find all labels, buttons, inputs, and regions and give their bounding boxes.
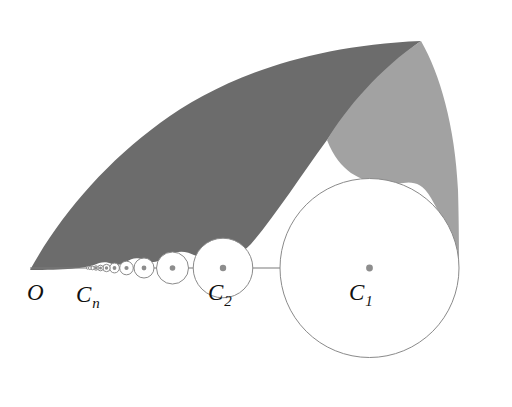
label-origin: O <box>27 280 44 305</box>
figure-root: OCnC2C1 <box>0 0 512 407</box>
geometry-figure: OCnC2C1 <box>0 0 512 407</box>
label-c-n-subscript: n <box>92 295 100 311</box>
circle-center-dot-6 <box>113 266 117 270</box>
circle-center-dot-7 <box>105 266 108 269</box>
label-origin-base: O <box>27 280 44 305</box>
circle-center-dot-5 <box>124 266 128 270</box>
circle-center-dot-8 <box>99 267 102 270</box>
circle-center-dot-4 <box>142 266 147 271</box>
circle-center-dot-1 <box>366 265 373 272</box>
circle-center-dot-2 <box>220 265 226 271</box>
label-c-2-base: C <box>208 280 224 305</box>
label-c-1-subscript: 1 <box>365 293 373 309</box>
label-c-1-base: C <box>349 280 365 305</box>
circle-center-dot-3 <box>170 265 176 271</box>
chain-circle-c12 <box>86 267 88 269</box>
label-c-2-subscript: 2 <box>224 293 232 309</box>
label-c-n-base: C <box>76 282 92 307</box>
circle-center-dot-9 <box>95 267 98 270</box>
